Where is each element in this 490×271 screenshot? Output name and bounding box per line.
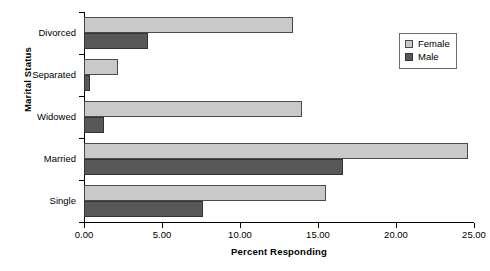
- legend-item-female: Female: [405, 38, 450, 50]
- x-tick: [162, 223, 163, 228]
- bar-widowed-male: [84, 117, 104, 133]
- x-tick: [318, 223, 319, 228]
- x-tick-label: 0.00: [54, 229, 114, 240]
- y-tick: [79, 96, 85, 97]
- y-tick-label: Separated: [0, 69, 76, 80]
- y-tick: [79, 54, 85, 55]
- bar-single-male: [84, 201, 203, 217]
- legend: Female Male: [399, 33, 457, 69]
- bar-separated-female: [84, 59, 118, 75]
- x-tick-label: 5.00: [132, 229, 192, 240]
- x-tick: [240, 223, 241, 228]
- x-tick-label: 15.00: [288, 229, 348, 240]
- y-tick-label: Widowed: [0, 111, 76, 122]
- y-tick: [79, 180, 85, 181]
- x-tick-label: 20.00: [366, 229, 426, 240]
- legend-swatch-female: [405, 40, 413, 48]
- x-tick-label: 10.00: [210, 229, 270, 240]
- legend-label-male: Male: [418, 52, 439, 62]
- bar-single-female: [84, 185, 326, 201]
- bar-divorced-male: [84, 33, 148, 49]
- y-tick-label: Divorced: [0, 27, 76, 38]
- bar-married-female: [84, 143, 468, 159]
- bar-separated-male: [84, 75, 90, 91]
- x-tick: [474, 223, 475, 228]
- x-axis-line: [84, 222, 474, 223]
- bar-married-male: [84, 159, 343, 175]
- x-axis-title: Percent Responding: [84, 246, 474, 257]
- y-tick-label: Single: [0, 195, 76, 206]
- x-tick: [396, 223, 397, 228]
- legend-item-male: Male: [405, 51, 450, 63]
- x-tick: [84, 223, 85, 228]
- y-tick: [79, 138, 85, 139]
- bar-widowed-female: [84, 101, 302, 117]
- y-tick: [79, 12, 85, 13]
- legend-swatch-male: [405, 53, 413, 61]
- y-tick-label: Married: [0, 153, 76, 164]
- bar-divorced-female: [84, 17, 293, 33]
- legend-label-female: Female: [418, 39, 450, 49]
- x-tick-label: 25.00: [444, 229, 490, 240]
